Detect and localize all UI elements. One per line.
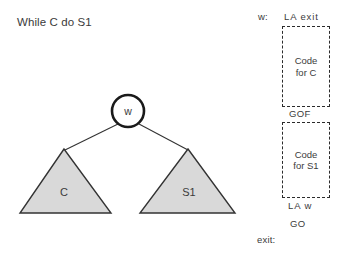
code-instruction-gof: GOF <box>289 108 311 119</box>
diagram-root: While C do S1 C S1 w w: LA exit Code for… <box>0 0 344 255</box>
code-block-s1: Code for S1 <box>282 122 330 198</box>
code-instruction-go: GO <box>290 218 306 229</box>
generated-code-column: w: LA exit Code for C GOF Code for S1 LA… <box>252 0 344 255</box>
subtree-triangle-c <box>20 149 111 213</box>
subtree-label-s1: S1 <box>182 186 195 198</box>
code-label-exit: exit: <box>257 234 275 245</box>
code-block-s1-label: Code for S1 <box>293 149 318 172</box>
code-instruction-la-w: LA w <box>288 200 312 211</box>
tree-node-w-label: w <box>123 105 132 117</box>
code-block-c: Code for C <box>282 26 330 107</box>
subtree-label-c: C <box>60 186 68 198</box>
tree-edge-right <box>139 124 188 150</box>
tree-edge-left <box>65 124 118 150</box>
code-block-c-label: Code for C <box>295 55 318 78</box>
code-label-w: w: <box>258 11 268 22</box>
code-instruction-la-exit: LA exit <box>284 11 319 22</box>
subtree-triangle-s1 <box>140 149 235 213</box>
